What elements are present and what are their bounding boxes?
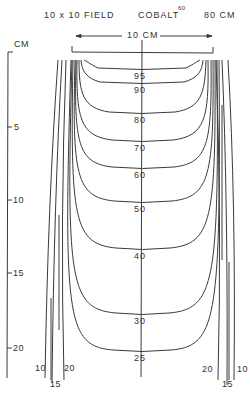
ssd-label: 80 CM	[204, 11, 236, 20]
isodose-label-95: 95	[134, 72, 146, 81]
depth-tick-10: 10	[13, 196, 24, 205]
isodose-label-25: 25	[134, 354, 146, 363]
isodose-label-50: 50	[134, 205, 146, 214]
isodose-label-40: 40	[134, 252, 146, 261]
field-size-label: 10 x 10 FIELD	[44, 11, 115, 20]
isodose-curve-30	[70, 60, 218, 315]
left-edge-label-15: 15	[50, 380, 61, 389]
depth-tick-5: 5	[14, 123, 20, 132]
edge-curve-right-15	[222, 60, 227, 385]
right-edge-label-15: 15	[222, 380, 233, 389]
depth-unit-label: CM	[14, 40, 29, 49]
edge-curve-left-20	[62, 60, 66, 380]
source-isotope-superscript: 60	[178, 5, 186, 11]
left-edge-label-20: 20	[64, 364, 75, 373]
edge-curve-left-15	[52, 60, 62, 383]
depth-tick-20: 20	[13, 344, 24, 353]
isodose-label-80: 80	[134, 116, 146, 125]
source-label: COBALT	[138, 11, 179, 20]
isodose-label-90: 90	[134, 86, 146, 95]
field-width-label: 10 CM	[127, 31, 159, 40]
right-edge-label-20: 20	[202, 365, 213, 374]
right-edge-label-10: 10	[237, 365, 248, 374]
left-edge-label-10: 10	[35, 364, 46, 373]
isodose-diagram	[0, 0, 250, 393]
isodose-label-30: 30	[134, 317, 146, 326]
isodose-label-70: 70	[134, 144, 146, 153]
depth-axis	[7, 52, 13, 378]
isodose-curve-50	[74, 60, 213, 203]
isodose-label-60: 60	[134, 171, 146, 180]
depth-tick-15: 15	[13, 269, 24, 278]
